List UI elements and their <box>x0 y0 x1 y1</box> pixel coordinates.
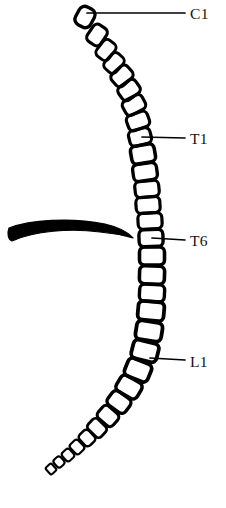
labels-group: C1T1T6L1 <box>190 5 209 370</box>
vertebra <box>138 212 163 229</box>
vertebra <box>95 403 121 428</box>
rib-group <box>8 220 133 241</box>
leader-line-t6 <box>152 238 185 240</box>
vertebra <box>69 438 86 455</box>
figure-canvas: C1T1T6L1 <box>0 0 226 508</box>
spine-figure: C1T1T6L1 <box>0 0 226 508</box>
label-l1: L1 <box>190 353 208 370</box>
rib-icon <box>8 220 133 241</box>
vertebra <box>114 373 144 401</box>
vertebrae-group <box>45 4 165 475</box>
vertebra <box>140 247 165 265</box>
vertebra <box>86 417 109 440</box>
vertebra <box>77 428 97 448</box>
label-c1: C1 <box>190 5 209 22</box>
vertebra <box>139 266 165 285</box>
label-t1: T1 <box>190 130 208 147</box>
leader-line-t1 <box>142 137 185 138</box>
label-t6: T6 <box>190 232 208 249</box>
vertebra <box>105 389 133 416</box>
